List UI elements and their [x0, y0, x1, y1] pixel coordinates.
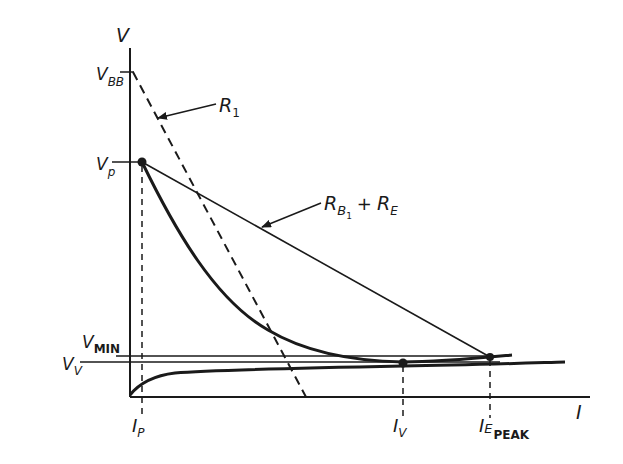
y-axis-label: V — [116, 24, 131, 46]
saturation-curve — [130, 362, 565, 395]
ujt-characteristic-diagram: V I VBB Vp VMIN VV IP IV IEPEAK R1 RB1+R… — [0, 0, 623, 464]
rb1-re-line — [142, 162, 490, 357]
vmin-label: VMIN — [82, 332, 120, 356]
r1-load-line — [133, 72, 306, 397]
rb1-re-arrow — [262, 203, 321, 227]
r1-arrow — [158, 104, 216, 118]
valley-point — [399, 359, 408, 368]
rb1-re-label: RB1+RE — [324, 192, 398, 221]
vbb-label: VBB — [96, 64, 124, 89]
ip-label: IP — [132, 415, 145, 440]
r1-label: R1 — [219, 94, 240, 120]
peak-point — [138, 158, 147, 167]
iv-label: IV — [393, 415, 407, 440]
iepeak-point — [486, 353, 494, 361]
vp-label: Vp — [96, 154, 116, 179]
iepeak-label: IEPEAK — [479, 415, 530, 442]
x-axis-label: I — [576, 401, 582, 423]
axes — [130, 48, 590, 397]
vv-label: VV — [62, 354, 83, 378]
